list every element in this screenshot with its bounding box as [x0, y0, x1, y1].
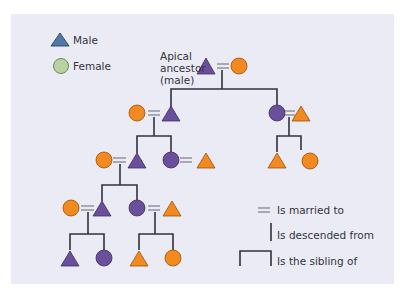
apical-label-line3: (male): [160, 74, 206, 86]
g4-daughter-spouse-triangle-icon: [163, 201, 181, 216]
male-key-triangle-icon: [51, 33, 69, 46]
legend-descended-label: Is descended from: [277, 229, 374, 241]
g5-daughter-b-circle-icon: [165, 250, 181, 266]
apical-label-line2: ancestor: [160, 62, 206, 74]
female-key-label: Female: [73, 60, 111, 72]
legend-sibling-label: Is the sibling of: [277, 255, 357, 267]
g3-right-son-triangle-icon: [268, 153, 286, 168]
g3-right-daughter-circle-icon: [302, 153, 318, 169]
apical-ancestor-label: Apical ancestor (male): [160, 50, 206, 86]
g5-daughter-a-circle-icon: [96, 250, 112, 266]
g2-right-spouse-triangle-icon: [292, 106, 310, 121]
g3-left-spouse-circle-icon: [96, 152, 112, 168]
g2-left-spouse-circle-icon: [129, 105, 145, 121]
g2-right-daughter-circle-icon: [269, 105, 285, 121]
g3-left-daughter-circle-icon: [163, 152, 179, 168]
g5-son-b-triangle-icon: [130, 251, 148, 266]
g5-son-a-triangle-icon: [61, 251, 79, 266]
g4-left-spouse-circle-icon: [63, 200, 79, 216]
g3-left-daughter-spouse-triangle-icon: [197, 153, 215, 168]
g4-daughter-circle-icon: [129, 200, 145, 216]
g3-left-son-triangle-icon: [128, 153, 146, 168]
g4-left-son-triangle-icon: [93, 201, 111, 216]
legend-married-label: Is married to: [277, 204, 344, 216]
g2-left-son-triangle-icon: [162, 106, 180, 121]
male-key-label: Male: [73, 34, 98, 46]
marriage-signs: [81, 64, 295, 212]
kinship-diagram: [0, 0, 401, 296]
apical-spouse-circle-icon: [231, 58, 247, 74]
sibling-bracket-icon: [240, 251, 271, 266]
apical-label-line1: Apical: [160, 50, 206, 62]
female-key-circle-icon: [54, 59, 69, 74]
